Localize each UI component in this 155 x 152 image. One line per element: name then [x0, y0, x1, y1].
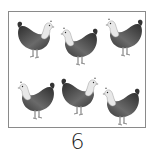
hen-icon [105, 16, 145, 60]
hen-icon [102, 85, 142, 129]
count-label: 6 [0, 131, 155, 152]
hen-icon [59, 75, 99, 119]
hen-icon [17, 79, 57, 123]
hen-icon [60, 25, 100, 69]
hen-icon [15, 18, 55, 62]
